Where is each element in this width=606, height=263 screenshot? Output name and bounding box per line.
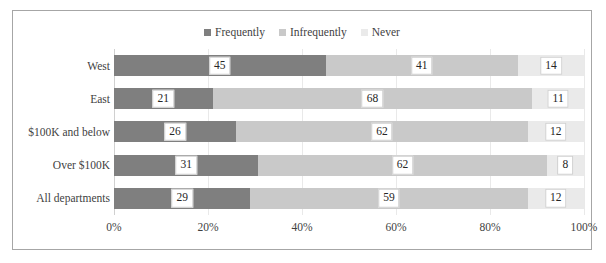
stacked-bar: 295912 <box>114 188 584 209</box>
x-axis-tick-label: 60% <box>385 221 406 233</box>
x-axis-tick-label: 20% <box>197 221 218 233</box>
legend-swatch-icon <box>361 29 368 36</box>
category-label: West <box>13 55 110 76</box>
category-label: $100K and below <box>13 121 110 142</box>
bar-value-label: 14 <box>540 56 562 75</box>
x-axis-tick-label: 80% <box>479 221 500 233</box>
category-label: East <box>13 88 110 109</box>
stacked-bar: 216811 <box>114 88 584 109</box>
x-axis-tick-label: 0% <box>106 221 121 233</box>
chart-legend: FrequentlyInfrequentlyNever <box>13 27 591 39</box>
bar-value-label: 21 <box>153 90 175 109</box>
bar-value-label: 59 <box>378 189 400 208</box>
bar-segment-infrequently[interactable]: 41 <box>326 55 519 76</box>
bar-segment-infrequently[interactable]: 59 <box>250 188 527 209</box>
bar-row: 454114 <box>114 55 584 76</box>
bar-value-label: 68 <box>362 90 384 109</box>
stacked-bar: 31628 <box>114 155 584 176</box>
bar-value-label: 31 <box>175 156 197 175</box>
bar-segment-frequently[interactable]: 29 <box>114 188 250 209</box>
bar-segment-frequently[interactable]: 21 <box>114 88 213 109</box>
bar-row: 266212 <box>114 121 584 142</box>
stacked-bar: 454114 <box>114 55 584 76</box>
bar-segment-infrequently[interactable]: 62 <box>258 155 547 176</box>
bar-value-label: 11 <box>548 90 569 109</box>
stacked-bar: 266212 <box>114 121 584 142</box>
legend-item-label: Never <box>372 27 400 39</box>
bar-segment-never[interactable]: 12 <box>528 188 584 209</box>
bar-value-label: 62 <box>371 123 393 142</box>
bar-value-label: 45 <box>209 56 231 75</box>
legend-swatch-icon <box>204 29 211 36</box>
bar-row: 31628 <box>114 155 584 176</box>
bar-value-label: 26 <box>164 123 186 142</box>
bar-value-label: 12 <box>545 189 567 208</box>
bar-segment-frequently[interactable]: 31 <box>114 155 258 176</box>
bar-value-label: 8 <box>558 156 574 175</box>
category-axis-labels: WestEast$100K and belowOver $100KAll dep… <box>13 49 110 215</box>
category-label: Over $100K <box>13 155 110 176</box>
x-axis-tick-label: 100% <box>571 221 598 233</box>
legend-item-never[interactable]: Never <box>361 27 400 39</box>
category-label: All departments <box>13 188 110 209</box>
bar-value-label: 12 <box>545 123 567 142</box>
bar-segment-infrequently[interactable]: 68 <box>213 88 533 109</box>
bar-segment-frequently[interactable]: 45 <box>114 55 326 76</box>
bar-segment-never[interactable]: 11 <box>532 88 584 109</box>
bar-segment-never[interactable]: 14 <box>518 55 584 76</box>
chart-frame: FrequentlyInfrequentlyNever WestEast$100… <box>12 10 592 250</box>
bar-row: 295912 <box>114 188 584 209</box>
value-axis-labels: 0%20%40%60%80%100% <box>114 221 584 237</box>
bar-value-label: 41 <box>411 56 433 75</box>
legend-item-label: Infrequently <box>290 27 347 39</box>
bar-value-label: 62 <box>392 156 414 175</box>
bar-rows: 45411421681126621231628295912 <box>114 49 584 215</box>
plot-area: 45411421681126621231628295912 <box>114 49 584 215</box>
x-axis-tick-label: 40% <box>291 221 312 233</box>
bar-segment-never[interactable]: 12 <box>528 121 584 142</box>
legend-swatch-icon <box>279 29 286 36</box>
bar-value-label: 29 <box>171 189 193 208</box>
legend-item-infrequently[interactable]: Infrequently <box>279 27 347 39</box>
gridline <box>584 49 585 215</box>
bar-segment-infrequently[interactable]: 62 <box>236 121 527 142</box>
legend-item-label: Frequently <box>215 27 265 39</box>
bar-segment-frequently[interactable]: 26 <box>114 121 236 142</box>
bar-segment-never[interactable]: 8 <box>547 155 584 176</box>
legend-item-frequently[interactable]: Frequently <box>204 27 265 39</box>
bar-row: 216811 <box>114 88 584 109</box>
